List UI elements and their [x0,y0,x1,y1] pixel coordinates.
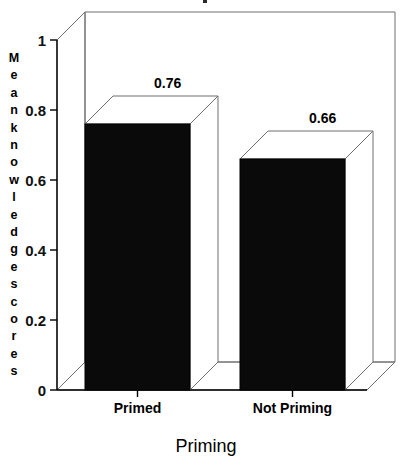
y-axis-title-char: a [11,86,19,100]
y-tick-label: 0.8 [25,102,46,119]
y-axis-title-char: w [8,173,19,187]
y-axis-title-char: e [11,68,18,82]
bar-value-label: 0.66 [309,110,336,126]
y-axis-title-char: o [10,312,18,326]
y-axis-title-char: n [10,138,18,152]
y-axis-title-char: c [11,295,18,309]
bar-front-face [85,124,190,390]
plot-left-wall [57,12,85,390]
y-axis-title-char: e [11,347,18,361]
y-axis-title-char: o [10,155,18,169]
cropped-title-fragment [203,0,207,3]
bar-side-face [190,96,218,390]
x-category-group: PrimedNot Priming [114,390,332,416]
y-axis-title-char: g [10,242,18,256]
y-axis-title-char: r [12,329,17,343]
y-tick-group: 00.20.40.60.81 [25,32,57,399]
y-axis-title-char: s [11,277,18,291]
bar-chart-figure: 00.20.40.60.81 PrimedNot Priming 0.760.6… [0,0,412,458]
bar-column [240,131,373,390]
y-tick-label: 0 [38,382,46,399]
y-tick-label: 0.6 [25,172,46,189]
bars-group [85,96,373,390]
y-axis-title-char: e [11,260,18,274]
bar-side-face [345,131,373,390]
chart-canvas: 00.20.40.60.81 PrimedNot Priming 0.760.6… [0,0,412,458]
y-tick-label: 1 [38,32,46,49]
bar-column [85,96,218,390]
y-axis-title-char: e [11,208,18,222]
y-axis-title-char: l [12,190,15,204]
x-category-label: Primed [114,400,161,416]
y-axis-title-char: k [11,121,18,135]
x-axis-title: Priming [175,436,236,456]
y-axis-title-char: M [9,51,19,65]
y-axis-title-char: n [10,103,18,117]
y-tick-label: 0.2 [25,312,46,329]
x-category-label: Not Priming [253,400,332,416]
bar-value-label: 0.76 [154,75,181,91]
bar-front-face [240,159,345,390]
y-tick-label: 0.4 [25,242,47,259]
y-axis-title-char: d [10,225,18,239]
y-axis-title-char: s [11,364,18,378]
y-axis-title: Meanknowledgescores [8,51,19,378]
